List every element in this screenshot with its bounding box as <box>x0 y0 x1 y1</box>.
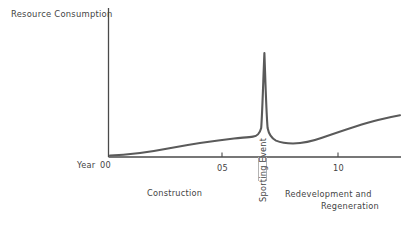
phase-label-redevelopment-line2: Regeneration <box>285 201 379 213</box>
x-axis-origin-value: 00 <box>100 160 111 170</box>
chart-figure: Resource Consumption Year 00 05 10 Const… <box>0 0 409 249</box>
x-axis-origin-prefix: Year <box>77 160 95 170</box>
resource-consumption-curve <box>110 53 400 156</box>
y-axis-label: Resource Consumption <box>11 9 113 20</box>
x-tick-label-05: 05 <box>217 163 228 173</box>
phase-label-redevelopment-line1: Redevelopment and <box>285 189 372 199</box>
phase-label-redevelopment: Redevelopment and Regeneration <box>285 189 379 213</box>
x-tick-label-10: 10 <box>333 163 344 173</box>
event-marker-label-sporting-event: Sporting Event <box>258 132 268 202</box>
phase-label-construction: Construction <box>147 188 202 198</box>
